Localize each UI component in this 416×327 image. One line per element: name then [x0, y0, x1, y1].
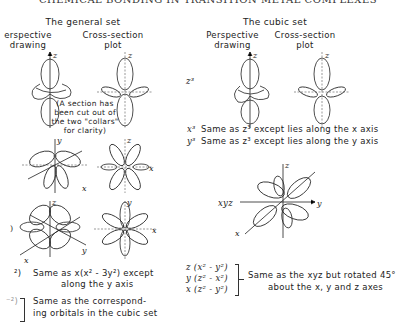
svg-text:y: y — [56, 136, 62, 145]
svg-text:x: x — [82, 184, 87, 193]
note-line-2: been cut out of — [45, 108, 125, 117]
svg-text:z: z — [126, 136, 132, 145]
cubic-col2-line2: plot — [270, 40, 340, 50]
svg-text:y: y — [316, 199, 322, 208]
svg-text:z: z — [252, 51, 258, 60]
group-description-line1: Same as the xyz but rotated 45° — [248, 270, 396, 280]
cubic-group-labels: z (x² - y²) y (z² - x²) x (z² - y²) — [186, 262, 228, 295]
group-label-1: z (x² - y²) — [186, 262, 228, 273]
cubic-col1-line1: Perspective — [200, 30, 265, 40]
page-header: CHEMICAL BONDING IN TRANSITION METAL COM… — [0, 0, 416, 5]
cubic-z3-crosssection-diagram: z — [292, 50, 352, 130]
group-label-3: x (z² - y²) — [186, 284, 228, 295]
svg-text:y: y — [81, 246, 87, 255]
note-line-4: for clarity) — [45, 126, 125, 135]
general-col1-line2: drawing — [0, 40, 58, 50]
y3-description: Same as z³ except lies along the y axis — [201, 136, 378, 146]
general-caption1-line2: along the y axis — [61, 279, 133, 289]
svg-text:z: z — [52, 51, 58, 60]
y3-label: y³ — [187, 136, 196, 146]
general-note: (A section has been cut out of the two "… — [45, 99, 125, 135]
cubic-z3-perspective-diagram: z — [220, 50, 280, 130]
svg-text:): ) — [10, 224, 13, 233]
general-caption1-prefix: ²) — [14, 268, 21, 278]
general-set-title: The general set — [38, 17, 128, 27]
group-description-line2: about the x, y and z axes — [268, 282, 383, 292]
xyz-label: xyz — [218, 198, 233, 208]
general-col1-line1: erspective — [0, 30, 58, 40]
svg-text:z: z — [284, 161, 290, 170]
x3-description: Same as z³ except lies along the x axis — [201, 124, 378, 134]
general-col2-line1: Cross-section — [78, 30, 148, 40]
general-caption2-line1: Same as the correspond- — [33, 296, 146, 306]
general-f-crosssection-diagram-2: z x — [95, 135, 155, 195]
general-caption2-bracket — [20, 298, 25, 322]
svg-text:x: x — [24, 256, 29, 265]
svg-text:x: x — [149, 164, 154, 173]
general-f-perspective-diagram-3: z y x ) — [10, 195, 90, 265]
cubic-group-bracket-tick — [238, 279, 244, 280]
general-caption2-line2: ing orbitals in the cubic set — [33, 308, 157, 318]
general-col2-line2: plot — [78, 40, 148, 50]
cubic-col1-line2: drawing — [200, 40, 265, 50]
cubic-col2-line1: Cross-section — [270, 30, 340, 40]
z3-label: z³ — [186, 76, 195, 86]
general-caption1-line1: Same as x(x² - 3y²) except — [33, 268, 154, 278]
general-f-perspective-diagram-2: y x — [20, 135, 90, 195]
note-line-1: (A section has — [45, 99, 125, 108]
cubic-xyz-diagram: z y x — [235, 160, 325, 240]
cubic-set-title: The cubic set — [225, 17, 325, 27]
x3-label: x³ — [187, 124, 196, 134]
cubic-group-bracket — [235, 264, 239, 296]
note-line-3: the two "collars" — [45, 117, 125, 126]
general-caption2-prefix: ⁻²) — [6, 296, 18, 306]
group-label-2: y (z² - x²) — [186, 273, 228, 284]
svg-text:x: x — [152, 226, 157, 235]
svg-text:x: x — [235, 229, 240, 238]
general-f-crosssection-diagram-3: y x — [90, 195, 160, 265]
